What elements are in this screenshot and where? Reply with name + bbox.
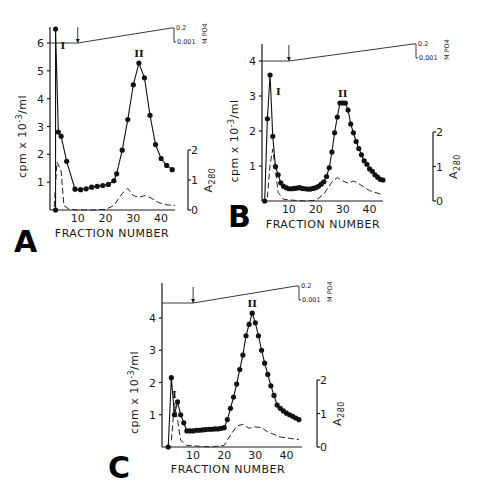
cpm-data-point [329, 149, 334, 154]
cpm-data-point [348, 121, 353, 126]
y-tick-label: 1 [37, 176, 44, 189]
cpm-data-point [170, 167, 175, 172]
cpm-data-point [153, 142, 158, 147]
panel-letter-c: C [108, 450, 130, 485]
cpm-data-point [296, 417, 301, 422]
y-tick-label: 4 [149, 312, 156, 325]
cpm-data-point [240, 352, 245, 357]
cpm-data-point [327, 165, 332, 170]
cpm-data-point [247, 322, 252, 327]
gradient-min-label: 0.001 [177, 38, 196, 46]
y2-tick-label: 0 [191, 204, 198, 217]
cpm-data-point [53, 207, 58, 212]
y-tick-label: 6 [37, 37, 44, 50]
x-tick-label: 40 [154, 212, 168, 225]
y2-axis-title: A280 [331, 401, 346, 426]
y-tick-label: 1 [149, 409, 156, 422]
x-tick-label: 40 [279, 449, 293, 462]
panel-a: 0.20.001M PO412345610203040cpm x 10-3/ml… [14, 23, 217, 259]
cpm-data-point [222, 425, 227, 430]
cpm-data-point [380, 177, 385, 182]
cpm-data-point [259, 348, 264, 353]
cpm-data-point [166, 444, 171, 449]
y2-axis-title: A280 [447, 154, 462, 179]
cpm-data-point [178, 412, 183, 417]
cpm-data-point [120, 148, 125, 153]
y2-tick-label: 2 [191, 144, 198, 157]
cpm-data-point [262, 361, 267, 366]
cpm-data-point [175, 399, 180, 404]
y-tick-label: 3 [149, 344, 156, 357]
y2-tick-label: 2 [320, 374, 327, 387]
y-axis-title: cpm x 10-3/ml [227, 99, 241, 182]
cpm-data-point [136, 60, 141, 65]
x-tick-label: 10 [282, 203, 296, 216]
y-tick-label: 2 [37, 148, 44, 161]
cpm-data-point [335, 114, 340, 119]
cpm-data-point [147, 113, 152, 118]
x-tick-label: 20 [309, 203, 323, 216]
cpm-data-point [78, 187, 83, 192]
cpm-data-point [267, 72, 272, 77]
y2-tick-label: 2 [436, 126, 443, 139]
cpm-data-point [265, 372, 270, 377]
cpm-data-point [231, 394, 236, 399]
cpm-data-point [131, 82, 136, 87]
cpm-data-point [89, 185, 94, 190]
cpm-data-point [59, 134, 64, 139]
x-axis-title: FRACTION NUMBER [266, 218, 380, 231]
gradient-max-label: 0.2 [176, 24, 186, 32]
cpm-data-point [159, 156, 164, 161]
x-axis-title: FRACTION NUMBER [171, 463, 285, 476]
gradient-min-label: 0.001 [302, 296, 321, 304]
peak-label-i: I [60, 40, 65, 51]
y-tick-label: 1 [249, 160, 256, 173]
gradient-line [50, 28, 171, 43]
peak-label-i: I [172, 389, 177, 400]
cpm-data-point [243, 333, 248, 338]
cpm-data-point [169, 375, 174, 380]
panel-c: 0.20.001M PO4123410203040cpm x 10-3/ml01… [108, 281, 346, 485]
peak-label-ii: II [248, 298, 258, 309]
cpm-data-point [345, 107, 350, 112]
y2-tick-label: 1 [320, 408, 327, 421]
gradient-max-label: 0.2 [301, 282, 311, 290]
cpm-data-point [359, 152, 364, 157]
cpm-data-point [228, 406, 233, 411]
x-tick-label: 10 [186, 449, 200, 462]
x-tick-label: 20 [99, 212, 113, 225]
y-tick-label: 3 [249, 90, 256, 103]
cpm-data-point [53, 26, 58, 31]
cpm-data-point [321, 179, 326, 184]
gradient-line [262, 44, 413, 61]
gradient-unit-label: M PO4 [201, 23, 209, 44]
y-tick-label: 3 [37, 121, 44, 134]
panel-letter-b: B [228, 199, 251, 234]
gradient-unit-label: M PO4 [326, 281, 334, 302]
cpm-data-point [125, 117, 130, 122]
cpm-data-point [237, 367, 242, 372]
cpm-data-point [270, 134, 275, 139]
cpm-data-point [64, 159, 69, 164]
panel-letter-a: A [14, 224, 38, 259]
cpm-data-point [256, 333, 261, 338]
cpm-data-point [268, 383, 273, 388]
cpm-data-point [142, 75, 147, 80]
x-tick-label: 30 [336, 203, 350, 216]
peak-label-ii: II [338, 88, 348, 99]
cpm-data-point [250, 311, 255, 316]
a280-series-line [54, 162, 175, 210]
x-tick-label: 30 [126, 212, 140, 225]
cpm-data-point [72, 187, 77, 192]
cpm-data-point [364, 162, 369, 167]
y2-tick-label: 1 [191, 174, 198, 187]
y-tick-label: 2 [249, 125, 256, 138]
x-tick-label: 10 [71, 212, 85, 225]
y2-axis-title: A280 [202, 168, 217, 193]
panel-b: 0.20.001M PO4123410203040cpm x 10-3/ml01… [227, 39, 462, 234]
cpm-data-point [164, 163, 169, 168]
cpm-data-point [343, 100, 348, 105]
peak-label-i: I [276, 86, 281, 97]
peak-label-ii: II [134, 48, 144, 59]
cpm-data-point [324, 174, 329, 179]
